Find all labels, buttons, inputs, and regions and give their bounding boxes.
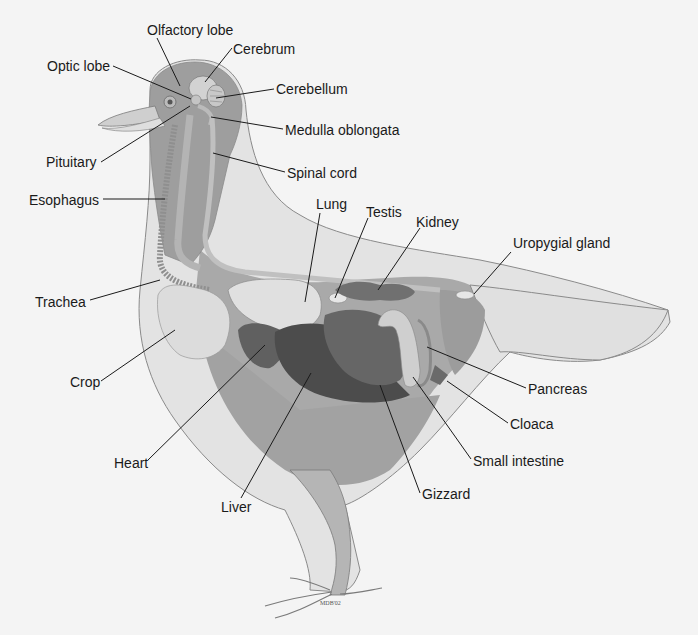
- label-liver: Liver: [221, 499, 251, 515]
- label-medulla-oblongata: Medulla oblongata: [285, 122, 399, 138]
- label-heart: Heart: [114, 455, 148, 471]
- label-lung: Lung: [316, 196, 347, 212]
- uropygial-gland: [456, 291, 474, 299]
- label-cerebrum: Cerebrum: [233, 41, 295, 57]
- label-esophagus: Esophagus: [29, 192, 99, 208]
- label-cerebellum: Cerebellum: [276, 81, 348, 97]
- label-uropygial-gland: Uropygial gland: [513, 235, 610, 251]
- bird-anatomy-diagram: MDB'02: [0, 0, 698, 635]
- label-pancreas: Pancreas: [528, 381, 587, 397]
- label-pituitary: Pituitary: [46, 154, 97, 170]
- label-small-intestine: Small intestine: [473, 453, 564, 469]
- label-crop: Crop: [70, 374, 100, 390]
- label-olfactory-lobe: Olfactory lobe: [147, 22, 233, 38]
- label-cloaca: Cloaca: [510, 416, 554, 432]
- label-optic-lobe: Optic lobe: [47, 58, 110, 74]
- eye-pupil: [168, 100, 173, 105]
- label-spinal-cord: Spinal cord: [287, 165, 357, 181]
- label-trachea: Trachea: [35, 294, 86, 310]
- label-testis: Testis: [366, 204, 402, 220]
- artist-signature: MDB'02: [320, 600, 341, 606]
- label-kidney: Kidney: [416, 214, 459, 230]
- label-gizzard: Gizzard: [422, 486, 470, 502]
